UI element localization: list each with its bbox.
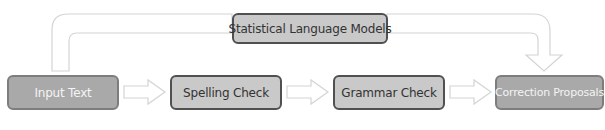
node-statistical-language-models: Statistical Language Models bbox=[232, 13, 388, 44]
node-label: Spelling Check bbox=[183, 86, 269, 100]
grammar-to-correction-arrow bbox=[450, 80, 491, 104]
node-label: Correction Proposals bbox=[495, 86, 604, 99]
node-correction-proposals: Correction Proposals bbox=[495, 75, 604, 110]
node-label: Input Text bbox=[34, 86, 91, 100]
slm-to-correction-arrow bbox=[387, 14, 562, 71]
input-to-spelling-arrow bbox=[124, 80, 165, 104]
node-label: Grammar Check bbox=[341, 86, 436, 100]
spelling-to-grammar-arrow bbox=[287, 80, 328, 104]
node-input-text: Input Text bbox=[7, 75, 119, 110]
node-grammar-check: Grammar Check bbox=[333, 75, 445, 110]
node-label: Statistical Language Models bbox=[228, 22, 391, 36]
node-spelling-check: Spelling Check bbox=[170, 75, 282, 110]
input-to-slm-arrow bbox=[52, 14, 232, 71]
